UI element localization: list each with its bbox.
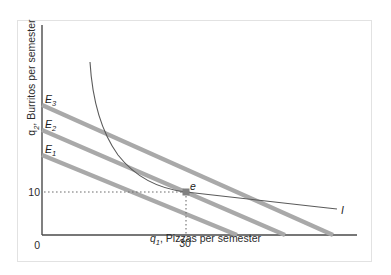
x-axis-tick-30: 30	[172, 237, 198, 249]
optimum-point-marker	[183, 189, 190, 196]
budget-line-e2	[42, 130, 285, 235]
y-axis-tick-10: 10	[18, 186, 40, 198]
y-axis-label: q2, Burritos per semester	[25, 3, 40, 153]
indifference-curve	[90, 62, 337, 209]
budget-line-e2-label: E2	[45, 118, 56, 133]
x-axis-label: q1, Pizzas per semester	[150, 232, 261, 247]
budget-line-e2-subscript: 2	[52, 124, 56, 133]
y-axis-var: q	[25, 130, 37, 136]
indifference-curve-label: I	[341, 204, 344, 216]
axis-origin-label: 0	[18, 239, 40, 251]
budget-line-e3-subscript: 3	[52, 99, 56, 108]
budget-line-e1-label: E1	[45, 143, 56, 158]
budget-line-e3-letter: E	[45, 93, 52, 105]
budget-line-e1-subscript: 1	[52, 149, 56, 158]
budget-line-e1-letter: E	[45, 143, 52, 155]
budget-line-e3-label: E3	[45, 93, 56, 108]
y-axis-label-text: , Burritos per semester	[25, 19, 37, 125]
budget-line-e2-letter: E	[45, 118, 52, 130]
optimum-point-label: e	[190, 180, 196, 192]
y-axis-subscript: 2	[32, 126, 41, 130]
